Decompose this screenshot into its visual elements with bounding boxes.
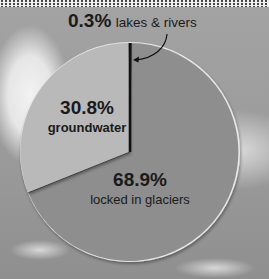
lakes-pct: 0.3% xyxy=(68,10,111,31)
lakes-desc: lakes & rivers xyxy=(116,15,197,30)
groundwater-pct: 30.8% xyxy=(46,97,128,119)
groundwater-desc: groundwater xyxy=(46,120,128,135)
label-lakes-rivers: 0.3% lakes & rivers xyxy=(68,10,197,32)
label-groundwater: 30.8% groundwater xyxy=(46,97,128,135)
glaciers-pct: 68.9% xyxy=(85,169,195,191)
pie-chart xyxy=(0,0,269,279)
glaciers-desc: locked in glaciers xyxy=(85,192,195,207)
label-glaciers: 68.9% locked in glaciers xyxy=(85,169,195,207)
